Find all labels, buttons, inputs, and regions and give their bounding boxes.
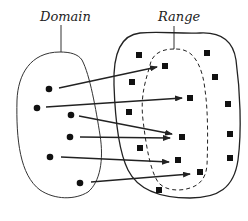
domain-point — [68, 112, 75, 119]
range-point — [187, 95, 193, 101]
codomain-point — [126, 109, 132, 115]
mapping-arrow — [91, 174, 190, 182]
function-mapping-diagram: Domain Range — [0, 0, 248, 221]
domain-point — [67, 134, 74, 141]
codomain-point — [227, 131, 233, 137]
domain-point — [47, 154, 54, 161]
range-point — [175, 157, 181, 163]
codomain-point — [227, 155, 233, 161]
mapping-arrow — [80, 137, 170, 138]
codomain-point — [212, 74, 218, 80]
domain-point — [46, 86, 53, 93]
mapping-arrow — [79, 116, 172, 134]
mapping-arrows — [46, 67, 190, 182]
diagram-svg: Domain Range — [0, 0, 248, 221]
range-point — [179, 134, 185, 140]
mapping-arrow — [59, 67, 157, 88]
codomain-point — [156, 187, 162, 193]
codomain-point — [137, 145, 143, 151]
range-label: Range — [157, 9, 201, 24]
codomain-point — [129, 79, 135, 85]
range-dashed-outline — [142, 49, 207, 190]
codomain-point — [204, 50, 210, 56]
domain-point — [77, 180, 84, 187]
codomain-set-outline — [114, 32, 240, 198]
range-point — [197, 169, 203, 175]
codomain-point — [136, 52, 142, 58]
domain-label: Domain — [39, 9, 91, 24]
domain-points — [34, 86, 84, 187]
codomain-point — [225, 101, 231, 107]
codomain-points — [126, 50, 233, 193]
domain-set-outline — [17, 52, 102, 198]
range-point — [162, 63, 168, 69]
domain-point — [34, 105, 41, 112]
mapping-arrow — [61, 157, 169, 162]
